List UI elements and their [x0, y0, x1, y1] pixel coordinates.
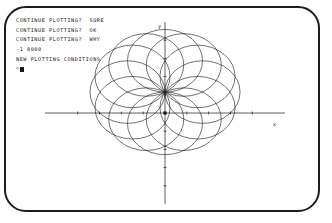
- y-axis-label: y: [158, 23, 161, 30]
- x-axis-label: x: [273, 121, 276, 127]
- axes-group: [45, 22, 285, 204]
- origin-marker: [163, 111, 166, 114]
- plot-area: y x: [45, 22, 285, 204]
- screen-viewport: CONTINUE PLOTTING? SURE CONTINUE PLOTTIN…: [0, 0, 332, 223]
- plot-canvas: y x: [45, 22, 285, 204]
- crt-terminal-screen: CONTINUE PLOTTING? SURE CONTINUE PLOTTIN…: [0, 0, 332, 223]
- prompt-caret: ^: [16, 66, 20, 72]
- text-cursor: [20, 67, 23, 72]
